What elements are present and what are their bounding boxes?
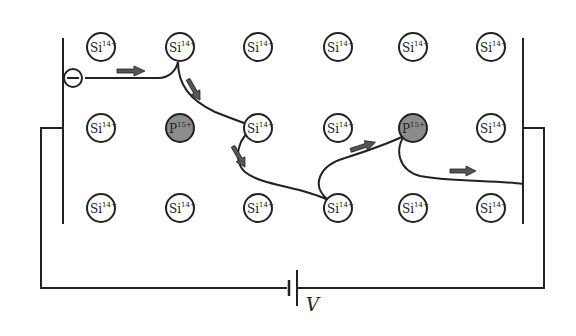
silicon-ion: Si14+ xyxy=(324,194,354,222)
arrow-right-icon xyxy=(450,166,476,176)
arrow-right-icon xyxy=(117,66,145,76)
voltage-label: V xyxy=(306,294,321,315)
silicon-ion: Si14+ xyxy=(87,194,117,222)
silicon-ion: Si14+ xyxy=(166,194,196,222)
silicon-ion: Si14+ xyxy=(87,33,117,61)
silicon-ion: Si14+ xyxy=(244,33,274,61)
silicon-ion: Si14+ xyxy=(477,194,507,222)
crystal-lattice: Si14+Si14+Si14+Si14+Si14+Si14+Si14+P15+S… xyxy=(87,33,507,222)
silicon-ion: Si14+ xyxy=(477,33,507,61)
silicon-ion: Si14+ xyxy=(324,33,354,61)
electron-path xyxy=(85,62,523,200)
silicon-ion: Si14+ xyxy=(166,33,196,61)
silicon-ion: Si14+ xyxy=(399,194,429,222)
electron xyxy=(64,69,82,87)
silicon-ion: Si14+ xyxy=(87,114,117,142)
silicon-ion: Si14+ xyxy=(477,114,507,142)
silicon-ion: Si14+ xyxy=(244,194,274,222)
phosphorus-ion: P15+ xyxy=(166,114,194,142)
semiconductor-diagram: V Si14+Si14+Si14+Si14+Si14+Si14+Si14+P15… xyxy=(0,0,576,336)
battery-symbol xyxy=(289,270,297,306)
silicon-ion: Si14+ xyxy=(244,114,274,142)
silicon-ion: Si14+ xyxy=(324,114,354,142)
phosphorus-ion: P15+ xyxy=(399,114,427,142)
silicon-ion: Si14+ xyxy=(399,33,429,61)
